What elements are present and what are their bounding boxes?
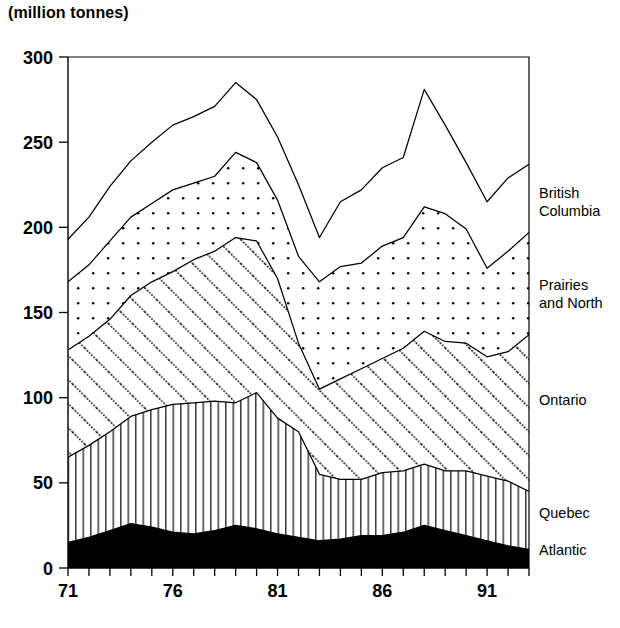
y-axis: 050100150200250300 — [23, 48, 68, 579]
x-tick-label: 81 — [268, 581, 288, 601]
legend-label-continued: and North — [539, 295, 603, 311]
legend-label-quebec: Quebec — [539, 505, 590, 521]
x-tick-label: 86 — [372, 581, 392, 601]
x-tick-label: 76 — [163, 581, 183, 601]
y-tick-label: 50 — [33, 473, 53, 493]
x-tick-label: 71 — [58, 581, 78, 601]
legend-label-atlantic: Atlantic — [539, 542, 587, 558]
y-tick-label: 300 — [23, 48, 53, 68]
legend-label-prairies: Prairies — [539, 277, 588, 293]
legend-label-ontario: Ontario — [539, 392, 587, 408]
y-tick-label: 0 — [43, 559, 53, 579]
y-tick-label: 200 — [23, 218, 53, 238]
legend-label-continued: Columbia — [539, 203, 601, 219]
y-tick-label: 100 — [23, 388, 53, 408]
x-tick-label: 91 — [477, 581, 497, 601]
x-axis: 7176818691 — [58, 568, 529, 601]
stacked-area-chart: 050100150200250300 7176818691 BritishCol… — [0, 0, 620, 628]
y-tick-label: 250 — [23, 133, 53, 153]
y-tick-label: 150 — [23, 303, 53, 323]
chart-legend: BritishColumbiaPrairiesand NorthOntarioQ… — [539, 185, 603, 558]
legend-label-british: British — [539, 185, 579, 201]
chart-container: (million tonnes) 050100150 — [0, 0, 620, 628]
